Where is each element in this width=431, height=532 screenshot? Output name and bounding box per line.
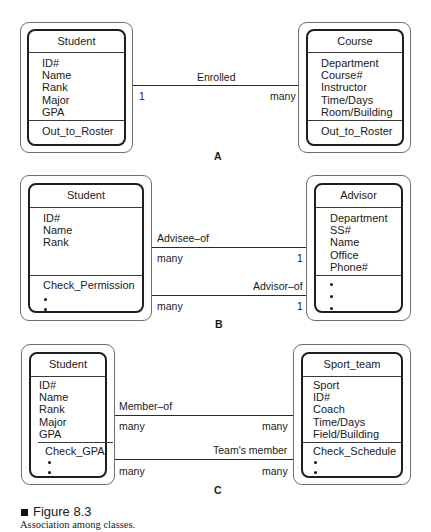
student-class-box: Student ID# Name Rank Major GPA Out_to_R… <box>27 29 126 146</box>
attribute: Course# <box>321 69 393 81</box>
attribute: Name <box>43 224 72 236</box>
attribute: Department <box>330 212 387 224</box>
attribute: Rank <box>42 81 71 93</box>
methods-divider <box>303 442 401 443</box>
association-line-enrolled <box>133 85 298 86</box>
attribute: ID# <box>43 212 72 224</box>
attribute-list: ID# Name Rank <box>43 212 72 249</box>
panel-label: C <box>214 484 222 496</box>
association-line-member-of <box>115 415 293 416</box>
right-multiplicity: 1 <box>297 300 303 312</box>
method: Check_GPA <box>45 445 105 457</box>
class-name: Student <box>29 35 124 47</box>
class-name: Student <box>30 189 142 201</box>
attribute: ID# <box>42 57 71 69</box>
left-multiplicity: many <box>157 252 183 264</box>
square-bullet-icon <box>21 509 28 516</box>
left-multiplicity: 1 <box>139 90 145 102</box>
attribute-list: Sport ID# Coach Time/Days Field/Building <box>313 379 379 440</box>
class-name: Sport_team <box>303 358 401 370</box>
class-name-divider <box>308 52 402 53</box>
attribute: Phone# <box>330 261 387 273</box>
student-class-box: Student ID# Name Rank Check_Permission <box>28 183 144 313</box>
attribute: ID# <box>313 391 379 403</box>
more-methods-dot <box>44 298 47 301</box>
attribute: Name <box>42 69 71 81</box>
attribute: SS# <box>330 224 387 236</box>
association-name: Advisee–of <box>157 232 209 244</box>
methods-divider <box>308 120 402 121</box>
attribute: Room/Building <box>321 106 393 118</box>
attribute-list: ID# Name Rank Major GPA <box>42 57 71 118</box>
course-class-box: Course Department Course# Instructor Tim… <box>306 29 404 146</box>
class-name-divider <box>29 52 124 53</box>
attribute: Coach <box>313 403 379 415</box>
class-name-divider <box>303 376 401 377</box>
attribute: GPA <box>42 106 71 118</box>
association-name: Member–of <box>119 400 172 412</box>
more-methods-dot <box>314 461 317 464</box>
panel-label: A <box>214 150 222 162</box>
class-name-divider <box>30 207 142 208</box>
left-multiplicity: many <box>119 420 145 432</box>
attribute-list: Department Course# Instructor Time/Days … <box>321 57 393 118</box>
left-multiplicity: many <box>119 465 145 477</box>
class-name: Advisor <box>316 189 401 201</box>
more-methods-dot <box>48 471 51 474</box>
association-line-teams-member <box>115 459 293 460</box>
panel-label: B <box>215 318 223 330</box>
attribute: Name <box>330 236 387 248</box>
attribute: Name <box>39 391 68 403</box>
more-methods-dot <box>330 283 333 286</box>
attribute: GPA <box>39 428 68 440</box>
method: Check_Permission <box>43 279 135 291</box>
method: Check_Schedule <box>313 445 396 457</box>
figure-caption: Association among classes. <box>20 519 135 530</box>
attribute-list: ID# Name Rank Major GPA <box>39 379 68 440</box>
association-line-advisee-of <box>152 247 306 248</box>
methods-divider <box>30 275 142 276</box>
attribute: Office <box>330 249 387 261</box>
association-name: Team's member <box>213 444 287 456</box>
attribute: Time/Days <box>313 416 379 428</box>
attribute: Time/Days <box>321 94 393 106</box>
right-multiplicity: 1 <box>297 252 303 264</box>
right-multiplicity: many <box>262 465 288 477</box>
class-name-divider <box>316 207 401 208</box>
attribute: Rank <box>39 403 68 415</box>
attribute: Rank <box>43 236 72 248</box>
association-line-advisor-of <box>152 295 306 296</box>
method: Out_to_Roster <box>321 125 393 137</box>
attribute: Field/Building <box>313 428 379 440</box>
class-name: Student <box>31 358 105 370</box>
figure-title: Figure 8.3 <box>33 504 92 519</box>
methods-divider <box>316 275 401 276</box>
attribute: Instructor <box>321 81 393 93</box>
right-multiplicity: many <box>262 420 288 432</box>
association-name: Advisor–of <box>253 280 303 292</box>
more-methods-dot <box>44 308 47 311</box>
attribute: Sport <box>313 379 379 391</box>
class-name: Course <box>308 35 402 47</box>
more-methods-dot <box>314 471 317 474</box>
methods-divider <box>38 442 113 443</box>
method: Out_to_Roster <box>42 125 114 137</box>
attribute-list: Department SS# Name Office Phone# <box>330 212 387 273</box>
attribute: Major <box>39 416 68 428</box>
methods-divider <box>29 120 124 121</box>
association-name: Enrolled <box>197 71 236 83</box>
attribute: Department <box>321 57 393 69</box>
advisor-class-box: Advisor Department SS# Name Office Phone… <box>314 183 403 313</box>
right-multiplicity: many <box>270 90 296 102</box>
attribute: ID# <box>39 379 68 391</box>
more-methods-dot <box>330 295 333 298</box>
more-methods-dot <box>48 461 51 464</box>
class-name-divider <box>31 376 105 377</box>
sport-team-class-box: Sport_team Sport ID# Coach Time/Days Fie… <box>301 352 403 478</box>
student-class-box: Student ID# Name Rank Major GPA Check_GP… <box>29 352 107 478</box>
more-methods-dot <box>330 307 333 310</box>
left-multiplicity: many <box>157 300 183 312</box>
attribute: Major <box>42 94 71 106</box>
